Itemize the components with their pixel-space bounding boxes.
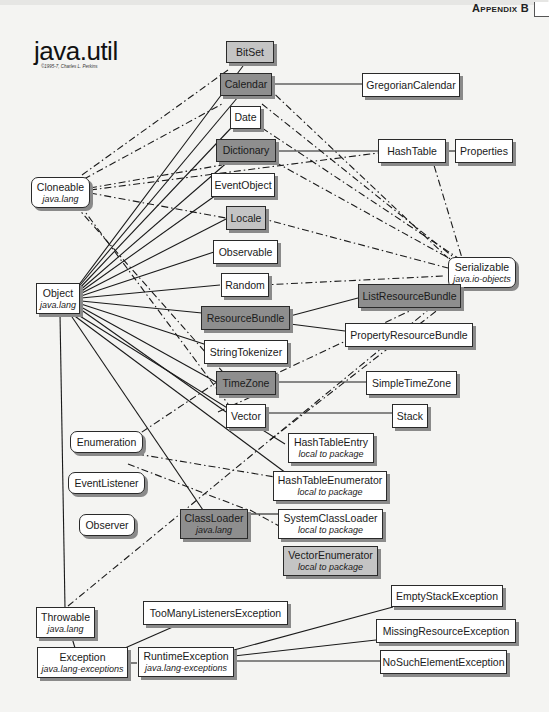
node-vectorenumerator-scope: local to package xyxy=(298,562,363,573)
node-hashtableenumerator[interactable]: HashTableEnumeratorlocal to package xyxy=(273,471,387,501)
node-calendar[interactable]: Calendar xyxy=(220,73,272,96)
node-exception-package: java.lang-exceptions xyxy=(41,664,123,675)
node-object[interactable]: Objectjava.lang xyxy=(36,283,80,314)
node-emptystackexception-label: EmptyStackException xyxy=(396,590,498,603)
node-runtimeexception-label: RuntimeException xyxy=(143,650,228,663)
node-random[interactable]: Random xyxy=(221,273,269,297)
node-emptystackexception[interactable]: EmptyStackException xyxy=(391,585,503,607)
node-cloneable-package: java.lang xyxy=(42,194,78,205)
node-date-label: Date xyxy=(234,111,256,124)
node-throwable[interactable]: Throwablejava.lang xyxy=(36,607,95,638)
node-hashtableenumerator-label: HashTableEnumerator xyxy=(278,474,382,487)
node-enumeration-label: Enumeration xyxy=(77,436,137,449)
node-eventobject-label: EventObject xyxy=(214,179,271,192)
node-timezone[interactable]: TimeZone xyxy=(216,371,276,395)
node-observer-label: Observer xyxy=(85,519,128,532)
node-missingresourceexception[interactable]: MissingResourceException xyxy=(376,619,516,643)
node-hashtableentry-label: HashTableEntry xyxy=(294,436,368,449)
node-simpletimezone[interactable]: SimpleTimeZone xyxy=(366,371,457,395)
node-listresourcebundle[interactable]: ListResourceBundle xyxy=(358,284,461,308)
node-vector[interactable]: Vector xyxy=(226,404,266,428)
node-serializable-label: Serializable xyxy=(455,261,509,274)
node-calendar-label: Calendar xyxy=(225,78,268,91)
node-classloader-label: ClassLoader xyxy=(185,512,244,525)
node-bitset[interactable]: BitSet xyxy=(226,41,274,63)
node-listresourcebundle-label: ListResourceBundle xyxy=(363,290,457,303)
node-throwable-label: Throwable xyxy=(41,611,90,624)
node-systemclassloader[interactable]: SystemClassLoaderlocal to package xyxy=(278,509,383,539)
node-observer[interactable]: Observer xyxy=(79,514,135,536)
node-classloader[interactable]: ClassLoaderjava.lang xyxy=(180,509,248,539)
node-date[interactable]: Date xyxy=(230,106,261,129)
node-serializable-package: java.io-objects xyxy=(453,274,511,285)
node-throwable-package: java.lang xyxy=(47,624,83,635)
node-cloneable-label: Cloneable xyxy=(37,181,84,194)
node-systemclassloader-scope: local to package xyxy=(298,525,363,536)
node-locale-label: Locale xyxy=(231,212,262,225)
node-vector-label: Vector xyxy=(231,410,261,423)
node-runtimeexception-package: java.lang-exceptions xyxy=(145,663,227,674)
node-propertyresourcebundle-label: PropertyResourceBundle xyxy=(350,329,467,342)
node-missingresourceexception-label: MissingResourceException xyxy=(383,625,510,638)
node-dictionary[interactable]: Dictionary xyxy=(216,139,276,162)
node-nosuchelementexception[interactable]: NoSuchElementException xyxy=(380,650,507,674)
node-hashtableentry[interactable]: HashTableEntrylocal to package xyxy=(288,433,374,463)
node-systemclassloader-label: SystemClassLoader xyxy=(284,512,378,525)
node-nosuchelementexception-label: NoSuchElementException xyxy=(383,656,505,669)
node-vectorenumerator-label: VectorEnumerator xyxy=(288,549,373,562)
node-enumeration[interactable]: Enumeration xyxy=(70,431,143,453)
node-stringtokenizer-label: StringTokenizer xyxy=(210,346,282,359)
node-random-label: Random xyxy=(225,279,265,292)
node-object-label: Object xyxy=(43,287,73,300)
node-properties[interactable]: Properties xyxy=(455,139,513,163)
node-eventlistener[interactable]: EventListener xyxy=(68,472,145,494)
node-eventobject[interactable]: EventObject xyxy=(211,173,275,197)
node-observable[interactable]: Observable xyxy=(213,240,278,264)
node-exception-label: Exception xyxy=(59,651,105,664)
node-hashtableenumerator-scope: local to package xyxy=(297,487,362,498)
node-hashtable[interactable]: HashTable xyxy=(378,139,446,163)
node-toomanylistenersexception[interactable]: TooManyListenersException xyxy=(143,601,288,625)
node-object-package: java.lang xyxy=(40,300,76,311)
node-resourcebundle[interactable]: ResourceBundle xyxy=(201,306,290,330)
node-stack[interactable]: Stack xyxy=(392,404,428,428)
node-hashtableentry-scope: local to package xyxy=(298,449,363,460)
node-propertyresourcebundle[interactable]: PropertyResourceBundle xyxy=(345,323,473,347)
node-toomanylistenersexception-label: TooManyListenersException xyxy=(150,607,281,620)
node-cloneable[interactable]: Cloneablejava.lang xyxy=(31,177,90,208)
node-exception[interactable]: Exceptionjava.lang-exceptions xyxy=(37,647,128,678)
node-gregoriancalendar[interactable]: GregorianCalendar xyxy=(362,73,460,97)
node-timezone-label: TimeZone xyxy=(223,377,270,390)
node-gregoriancalendar-label: GregorianCalendar xyxy=(366,79,455,92)
node-simpletimezone-label: SimpleTimeZone xyxy=(372,377,451,390)
node-classloader-package: java.lang xyxy=(196,525,232,536)
node-dictionary-label: Dictionary xyxy=(223,144,270,157)
node-vectorenumerator[interactable]: VectorEnumeratorlocal to package xyxy=(283,546,378,576)
node-eventlistener-label: EventListener xyxy=(74,477,138,490)
node-resourcebundle-label: ResourceBundle xyxy=(207,312,285,325)
node-observable-label: Observable xyxy=(219,246,273,259)
node-stack-label: Stack xyxy=(397,410,423,423)
node-locale[interactable]: Locale xyxy=(226,206,266,230)
node-bitset-label: BitSet xyxy=(236,46,264,59)
node-runtimeexception[interactable]: RuntimeExceptionjava.lang-exceptions xyxy=(138,647,234,677)
node-stringtokenizer[interactable]: StringTokenizer xyxy=(204,340,288,364)
node-properties-label: Properties xyxy=(460,145,508,158)
node-hashtable-label: HashTable xyxy=(387,145,437,158)
